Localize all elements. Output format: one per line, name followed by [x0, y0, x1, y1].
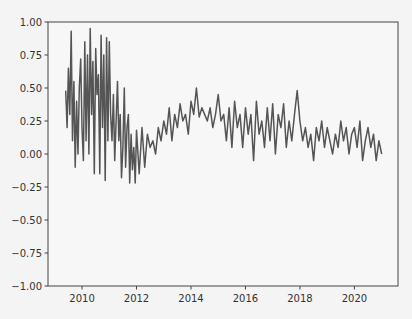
x-tick-label: 2016	[233, 293, 258, 304]
x-tick-label: 2010	[69, 293, 94, 304]
y-tick-label: −1.00	[11, 281, 42, 292]
x-tick-label: 2012	[124, 293, 149, 304]
y-tick-label: 0.25	[20, 116, 42, 127]
y-tick-label: 0.75	[20, 50, 42, 61]
y-tick-label: 0.00	[20, 149, 42, 160]
y-tick-label: 1.00	[20, 17, 42, 28]
line-chart: 1.000.750.500.250.00−0.25−0.50−0.75−1.00…	[0, 0, 412, 319]
x-tick-label: 2020	[342, 293, 367, 304]
y-tick-label: 0.50	[20, 83, 42, 94]
y-tick-label: −0.75	[11, 248, 42, 259]
y-tick-label: −0.25	[11, 182, 42, 193]
y-tick-label: −0.50	[11, 215, 42, 226]
x-tick-label: 2018	[287, 293, 312, 304]
x-tick-label: 2014	[178, 293, 203, 304]
